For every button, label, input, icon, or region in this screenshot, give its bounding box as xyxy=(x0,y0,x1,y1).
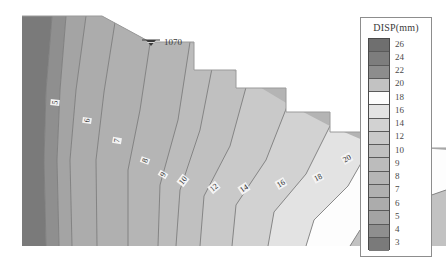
legend-tick-label: 14 xyxy=(395,119,404,128)
legend-tick-label: 12 xyxy=(395,132,404,141)
legend-tick-label: 24 xyxy=(395,53,404,62)
water-table-icon xyxy=(142,36,160,47)
legend-swatch xyxy=(369,119,389,132)
legend-swatch xyxy=(369,185,389,198)
legend-tick-label: 22 xyxy=(395,66,404,75)
legend-tick-label: 6 xyxy=(395,199,400,208)
legend-swatch xyxy=(369,52,389,65)
legend-tick-label: 3 xyxy=(395,238,400,247)
legend-tick-label: 7 xyxy=(395,185,400,194)
legend-swatch xyxy=(369,39,389,52)
legend-title: DISP(mm) xyxy=(361,22,431,33)
contour-label: 6 xyxy=(82,117,92,124)
contour-figure: 5 6 7 8 9 10 12 14 16 18 20 1070 DISP(mm… xyxy=(0,0,446,269)
legend-swatch xyxy=(369,92,389,105)
legend-swatch xyxy=(369,79,389,92)
legend-swatch xyxy=(369,105,389,118)
legend-swatch xyxy=(369,198,389,211)
legend-tick-label: 18 xyxy=(395,93,404,102)
legend-swatch xyxy=(369,172,389,185)
legend-labels: 2624222018161412109876543 xyxy=(395,38,425,250)
colorbar-legend: DISP(mm) 2624222018161412109876543 xyxy=(360,17,432,257)
legend-tick-label: 10 xyxy=(395,146,404,155)
legend-swatch xyxy=(369,225,389,238)
legend-tick-label: 5 xyxy=(395,212,400,221)
legend-swatch xyxy=(369,145,389,158)
legend-swatch xyxy=(369,132,389,145)
legend-tick-label: 9 xyxy=(395,159,400,168)
legend-swatch xyxy=(369,211,389,224)
legend-tick-label: 26 xyxy=(395,40,404,49)
legend-swatch xyxy=(369,158,389,171)
legend-tick-label: 4 xyxy=(395,225,400,234)
legend-tick-label: 8 xyxy=(395,172,400,181)
legend-tick-label: 16 xyxy=(395,106,404,115)
legend-swatch xyxy=(369,238,389,251)
contour-label: 5 xyxy=(50,99,60,106)
legend-body: 2624222018161412109876543 xyxy=(368,38,426,250)
water-table-annotation: 1070 xyxy=(142,36,182,47)
legend-tick-label: 20 xyxy=(395,79,404,88)
legend-swatch xyxy=(369,66,389,79)
legend-swatches xyxy=(368,38,390,250)
contour-label: 7 xyxy=(112,137,122,144)
elevation-label: 1070 xyxy=(164,37,182,47)
